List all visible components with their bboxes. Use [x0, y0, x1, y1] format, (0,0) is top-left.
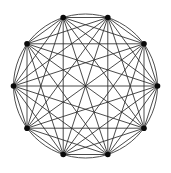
graph-vertex [11, 83, 17, 89]
graph-vertex [155, 83, 161, 89]
graph-vertex [24, 41, 30, 47]
graph-vertex [141, 41, 147, 47]
graph-vertex [60, 152, 66, 158]
graph-figure [0, 0, 171, 173]
graph-vertex [24, 125, 30, 131]
graph-vertex [141, 125, 147, 131]
graph-vertex [105, 15, 111, 21]
graph-vertex [60, 15, 66, 21]
complete-graph-svg [0, 0, 171, 173]
graph-vertex [105, 152, 111, 158]
